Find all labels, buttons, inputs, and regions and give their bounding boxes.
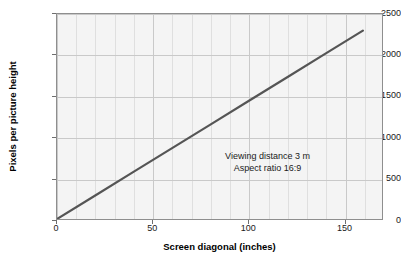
annotation-viewing-distance: Viewing distance 3 m: [195, 150, 340, 162]
annotation-aspect-ratio: Aspect ratio 16:9: [195, 162, 340, 174]
data-line-series: [57, 14, 382, 219]
y-axis-title-text: Pixels per picture height: [7, 61, 18, 171]
y-axis-title: Pixels per picture height: [5, 13, 19, 220]
chart-annotation: Viewing distance 3 m Aspect ratio 16:9: [195, 150, 340, 174]
x-tick-label: 100: [228, 224, 268, 233]
x-axis-title: Screen diagonal (inches): [56, 241, 383, 252]
x-tick-label: 50: [132, 224, 172, 233]
x-tick-label: 0: [36, 224, 76, 233]
series-polyline: [57, 31, 363, 219]
plot-area: [56, 13, 383, 220]
chart-figure: Pixels per picture height 05001000150020…: [0, 0, 401, 263]
x-tick-mark: [345, 220, 346, 224]
x-tick-mark: [152, 220, 153, 224]
x-tick-mark: [248, 220, 249, 224]
x-tick-label: 150: [325, 224, 365, 233]
x-tick-mark: [56, 220, 57, 224]
